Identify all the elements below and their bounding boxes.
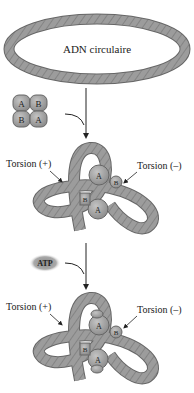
subunit-label: A <box>35 115 42 125</box>
subunit-label: A <box>96 322 102 331</box>
negative-torsion-label: Torsion (–) <box>137 304 182 316</box>
subunit-label: B <box>114 179 119 187</box>
subunit-label: B <box>114 329 119 337</box>
topoisomerase-diagram: ADN circulaire A B B A A B B A Torsion (… <box>0 0 194 393</box>
subunit-label: A <box>18 99 25 109</box>
subunit-label: B <box>83 196 88 204</box>
subunit-label: B <box>18 115 24 125</box>
pointer-arrow <box>50 314 61 324</box>
step-arrow <box>65 243 86 287</box>
pointer-arrow <box>125 316 137 327</box>
pointer-arrow <box>125 172 137 182</box>
pointer-arrow <box>50 171 61 181</box>
circular-dna-label: ADN circulaire <box>63 43 131 55</box>
negative-torsion-label: Torsion (–) <box>137 160 182 172</box>
atp-label: ATP <box>37 259 53 268</box>
positive-torsion-label: Torsion (+) <box>6 301 51 313</box>
step-arrow <box>65 88 86 136</box>
subunit-label: A <box>96 172 102 181</box>
subunit-label: B <box>35 99 41 109</box>
enzyme-tetramer: A B B A <box>13 95 47 127</box>
subunit-label: B <box>83 346 88 354</box>
subunit-label: A <box>95 206 101 215</box>
subunit-label: A <box>95 356 101 365</box>
supercoiled-dna-2 <box>39 298 153 380</box>
positive-torsion-label: Torsion (+) <box>6 158 51 170</box>
supercoiled-dna-1 <box>39 148 153 230</box>
